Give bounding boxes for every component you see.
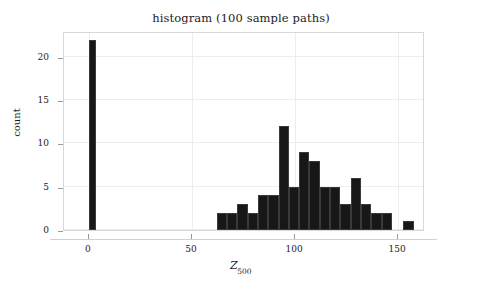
y-axis-label: count (11, 83, 22, 163)
histogram-bar (351, 178, 361, 230)
gridline-y-20 (64, 56, 423, 57)
y-tick-label: 20 (15, 52, 49, 62)
histogram-bar (309, 161, 319, 230)
y-tick-mark (58, 144, 63, 145)
histogram-bar (227, 213, 237, 230)
y-tick-mark (58, 101, 63, 102)
histogram-bar (279, 126, 289, 230)
page-title: histogram (100 sample paths) (0, 11, 482, 25)
histogram-bar (382, 213, 392, 230)
histogram-bar (330, 187, 340, 230)
x-tick-label: 50 (171, 244, 211, 254)
histogram-bar (340, 204, 350, 230)
histogram-figure: histogram (100 sample paths) 05101520 05… (0, 0, 482, 290)
histogram-bar (89, 40, 96, 230)
y-tick-label: 0 (15, 225, 49, 235)
x-tick-label: 0 (68, 244, 108, 254)
histogram-bar (258, 195, 268, 230)
x-tick-mark (191, 234, 192, 239)
histogram-bar (289, 187, 299, 230)
y-tick-mark (58, 188, 63, 189)
histogram-bar (237, 204, 247, 230)
x-tick-mark (294, 234, 295, 239)
histogram-bar (217, 213, 227, 230)
x-tick-mark (88, 234, 89, 239)
y-tick-label: 5 (15, 182, 49, 192)
x-tick-mark (397, 234, 398, 239)
gridline-x-50 (192, 33, 193, 230)
histogram-bar (361, 204, 371, 230)
gridline-y-10 (64, 142, 423, 143)
y-tick-mark (58, 58, 63, 59)
x-axis-label-subscript: 500 (237, 267, 251, 276)
x-tick-label: 100 (274, 244, 314, 254)
x-axis-label: Z500 (0, 259, 482, 274)
x-tick-label: 150 (377, 244, 417, 254)
plot-area (63, 32, 424, 231)
x-axis-spine (50, 239, 437, 240)
gridline-x-150 (398, 33, 399, 230)
histogram-bar (299, 152, 309, 230)
histogram-bar (371, 213, 381, 230)
histogram-bar (320, 187, 330, 230)
gridline-y-15 (64, 99, 423, 100)
histogram-bar (268, 195, 278, 230)
gridline-y-5 (64, 186, 423, 187)
histogram-bar (403, 221, 413, 230)
y-tick-mark (58, 231, 63, 232)
histogram-bar (248, 213, 258, 230)
